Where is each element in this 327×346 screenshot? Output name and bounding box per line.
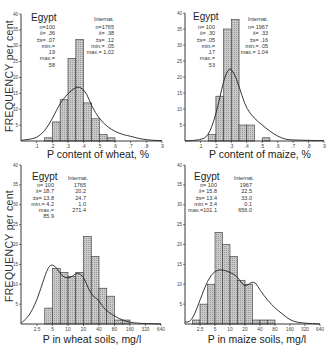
bars bbox=[45, 237, 130, 324]
egypt-stats: n= 100 x̄= 15.8 ±s= 13.4 min.= 3.4 max.=… bbox=[186, 182, 217, 213]
y-axis-label-bottom: FREQUENCY per cent bbox=[3, 190, 15, 302]
internat-label: Internat. bbox=[234, 175, 254, 181]
x-tick-label: 10 bbox=[65, 327, 71, 332]
histogram-bar bbox=[268, 320, 276, 324]
x-tick-label: 160 bbox=[126, 327, 134, 332]
histogram-bar bbox=[99, 135, 107, 141]
histogram-bar bbox=[107, 138, 115, 141]
histogram-bar bbox=[223, 245, 231, 325]
histogram-bar bbox=[208, 284, 216, 324]
egypt-stats: n= 100 x̄= .30 ±s= .05 min.= .17 max.= .… bbox=[193, 24, 215, 68]
y-tick-label: 10 bbox=[177, 107, 183, 112]
bars bbox=[193, 233, 276, 324]
y-tick-label: 40 bbox=[177, 11, 183, 16]
histogram-bar bbox=[60, 272, 68, 324]
histogram-bar bbox=[200, 304, 208, 324]
internat-label: Internat. bbox=[94, 16, 114, 22]
histogram-bar bbox=[76, 39, 84, 141]
stat-max: 271.4 bbox=[66, 207, 86, 213]
histogram-bar bbox=[52, 122, 60, 141]
stat-sd: ±s= .05 bbox=[193, 37, 215, 43]
y-axis-label-top: FREQUENCY per cent bbox=[3, 20, 15, 132]
histogram-bar bbox=[239, 125, 247, 141]
x-axis-label-wheat-soils: P in wheat soils, mg/l bbox=[32, 333, 152, 345]
internat-stats: n= 1967 x̄= .33 ±s= .16 min.= .05 max.= … bbox=[240, 24, 268, 55]
panel-title-egypt: Egypt bbox=[193, 11, 219, 22]
histogram-bar bbox=[224, 29, 232, 141]
x-tick-label: 2.5 bbox=[197, 327, 204, 332]
y-tick-label: 35 bbox=[177, 27, 183, 32]
y-tick-label: 20 bbox=[177, 75, 183, 80]
stat-max: 656.0 bbox=[232, 207, 252, 213]
x-tick-label: 80 bbox=[272, 327, 278, 332]
x-tick-label: 5 bbox=[214, 327, 217, 332]
x-axis-label-maize-soils: P in maize soils, mg/l bbox=[197, 333, 317, 345]
x-tick-label: 320 bbox=[301, 327, 309, 332]
internat-stats: 1765 20.2 24.7 1.0 271.4 bbox=[66, 182, 86, 213]
histogram-bar bbox=[245, 284, 253, 324]
y-tick-label: 40 bbox=[177, 163, 183, 168]
y-tick-label: 35 bbox=[177, 182, 183, 187]
x-tick-label: 640 bbox=[157, 327, 165, 332]
x-tick-label: 160 bbox=[286, 327, 294, 332]
y-tick-label: 25 bbox=[177, 59, 183, 64]
y-tick-label: 5 bbox=[179, 302, 182, 307]
internat-stats: 1967 22.5 33.0 0.1 656.0 bbox=[232, 182, 252, 213]
x-axis-label-maize: P content of maize, % bbox=[200, 148, 320, 160]
histogram-bar bbox=[262, 138, 270, 141]
y-tick-label: 25 bbox=[177, 222, 183, 227]
y-tick-label: 20 bbox=[177, 242, 183, 247]
x-tick-label: .9 bbox=[160, 144, 164, 149]
internat-stats: n=1765 x̄= .38 ±s= .12 min.= .05 max.= 1… bbox=[86, 24, 114, 55]
histogram-bar bbox=[45, 308, 53, 324]
egypt-stats: n=100 x̄= .36 ±s= .07 min.= .19 max.= .5… bbox=[33, 24, 55, 68]
histogram-bar bbox=[260, 320, 268, 324]
histogram-bar bbox=[84, 103, 92, 141]
stat-sd: ±s= .07 bbox=[33, 37, 55, 43]
stat-max: max.= 1.02 bbox=[86, 49, 114, 55]
y-tick-label: 35 bbox=[13, 182, 19, 187]
y-tick-label: 10 bbox=[177, 282, 183, 287]
internat-label: Internat. bbox=[248, 16, 268, 22]
egypt-stats: n= 100 x̄= 18.7 ±s= 13.8 min.= 4.2 max.=… bbox=[28, 182, 54, 220]
y-tick-label: 5 bbox=[15, 123, 18, 128]
stat-max: max.= 85.9 bbox=[28, 207, 54, 220]
stat-min: min.= .19 bbox=[33, 43, 55, 56]
histogram-bar bbox=[193, 320, 201, 324]
stat-max: max.= 1.04 bbox=[240, 49, 268, 55]
panel-title-egypt: Egypt bbox=[31, 12, 57, 23]
histogram-bar bbox=[208, 135, 216, 141]
panel-title-egypt: Egypt bbox=[32, 171, 58, 182]
histogram-bar bbox=[92, 119, 100, 141]
histogram-bar bbox=[115, 320, 123, 324]
histogram-bar bbox=[107, 296, 115, 324]
x-tick-label: .9 bbox=[322, 144, 326, 149]
x-tick-label: 40 bbox=[257, 327, 263, 332]
histogram-bar bbox=[60, 100, 68, 141]
histogram-bar bbox=[231, 19, 239, 141]
histogram-bar bbox=[91, 256, 99, 324]
x-tick-label: 10 bbox=[227, 327, 233, 332]
x-tick-label: 80 bbox=[112, 327, 118, 332]
histogram-bar bbox=[68, 58, 76, 141]
histogram-bar bbox=[216, 96, 224, 141]
histogram-bar bbox=[76, 272, 84, 324]
x-axis-label-wheat: P content of wheat, % bbox=[38, 148, 158, 160]
y-tick-label: 30 bbox=[177, 43, 183, 48]
y-tick-label: 5 bbox=[15, 302, 18, 307]
histogram-bar bbox=[53, 268, 61, 324]
histogram-bar bbox=[45, 138, 53, 141]
histogram-bar bbox=[68, 276, 76, 324]
histogram-bar bbox=[230, 256, 238, 324]
y-tick-label: 5 bbox=[179, 123, 182, 128]
stat-max: max.=101.1 bbox=[186, 207, 217, 213]
x-tick-label: 5 bbox=[51, 327, 54, 332]
histogram-bar bbox=[253, 320, 261, 324]
y-tick-label: 30 bbox=[177, 202, 183, 207]
stat-max: max.= .58 bbox=[33, 55, 55, 68]
y-tick-label: 15 bbox=[177, 91, 183, 96]
x-tick-label: 640 bbox=[316, 327, 324, 332]
x-tick-label: 320 bbox=[141, 327, 149, 332]
histogram-bar bbox=[215, 233, 223, 324]
stat-min: min.= .17 bbox=[193, 43, 215, 56]
